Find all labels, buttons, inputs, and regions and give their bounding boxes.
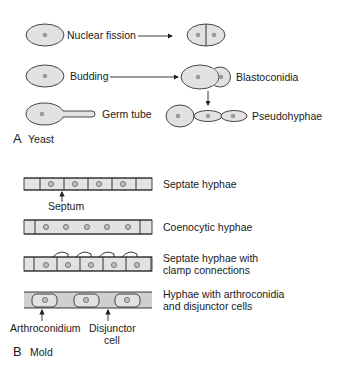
label-septum: Septum	[48, 200, 84, 212]
fungal-morphology-diagram: Nuclear fission Budding Blastoconidia Ge…	[0, 0, 339, 365]
clamp-connection-hyphae	[24, 252, 152, 271]
section-b-letter: B	[13, 344, 22, 359]
section-a-title: Yeast	[28, 133, 54, 145]
label-septate-hyphae: Septate hyphae	[163, 178, 237, 190]
label-germ-tube: Germ tube	[102, 108, 152, 120]
arthroconidia-hyphae	[24, 292, 152, 308]
yeast-cell-fission	[26, 24, 64, 46]
label-disjunctor-cell: cell	[104, 334, 120, 346]
label-blastoconidia: Blastoconidia	[236, 71, 299, 83]
label-arthroconidium: Arthroconidium	[10, 322, 81, 334]
pseudohyphae-chain	[166, 105, 247, 127]
label-clamp-line2: clamp connections	[163, 264, 250, 276]
label-disjunctor: Disjunctor	[89, 322, 136, 334]
section-b-title: Mold	[30, 346, 53, 358]
septate-hyphae	[24, 178, 152, 190]
yeast-cell-budding	[26, 65, 64, 87]
coenocytic-hyphae	[24, 220, 152, 234]
label-clamp-line1: Septate hyphae with	[163, 252, 258, 264]
label-budding: Budding	[70, 70, 109, 82]
blastoconidia-cell	[181, 65, 231, 89]
label-arthro-line1: Hyphae with arthroconidia	[163, 288, 285, 300]
germ-tube-cell	[26, 103, 95, 125]
label-arthro-line2: and disjunctor cells	[163, 300, 252, 312]
dividing-yeast-cell	[187, 24, 225, 46]
label-coenocytic-hyphae: Coenocytic hyphae	[163, 221, 252, 233]
label-nuclear-fission: Nuclear fission	[67, 29, 136, 41]
label-pseudohyphae: Pseudohyphae	[252, 110, 322, 122]
section-a-letter: A	[13, 131, 22, 146]
